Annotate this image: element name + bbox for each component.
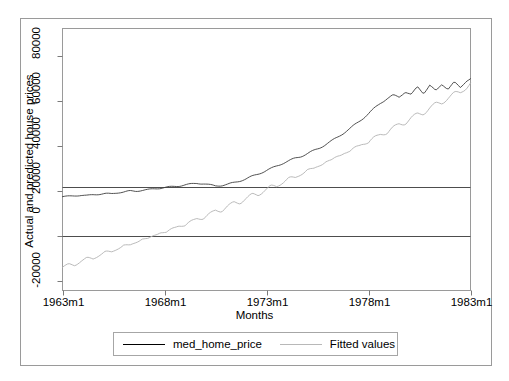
y-axis-ticks [58, 57, 63, 282]
plot-frame [63, 29, 471, 291]
x-tick-label-1983m1: 1983m1 [432, 296, 509, 308]
reference-lines [63, 188, 471, 237]
series-line-fitted-values [63, 83, 471, 267]
legend-label-fitted-values: Fitted values [330, 338, 395, 350]
series-line-med-home-price [63, 79, 471, 197]
legend-entry-med-home-price: med_home_price [114, 333, 262, 355]
x-tick-label-1973m1: 1973m1 [228, 296, 308, 308]
chart-legend: med_home_price Fitted values [113, 332, 398, 356]
plot-area [0, 0, 509, 381]
legend-line-swatch-icon [280, 344, 322, 345]
data-series-group [63, 79, 471, 267]
x-tick-label-1963m1: 1963m1 [24, 296, 104, 308]
x-axis-ticks [64, 291, 472, 296]
legend-entry-fitted-values: Fitted values [262, 333, 395, 355]
x-axis-title: Months [0, 309, 509, 321]
x-tick-label-1968m1: 1968m1 [126, 296, 206, 308]
x-tick-label-1978m1: 1978m1 [330, 296, 410, 308]
legend-line-swatch-icon [123, 344, 165, 345]
figure-canvas: Actual and predicted house prices 80000 … [0, 0, 509, 381]
legend-label-med-home-price: med_home_price [173, 338, 262, 350]
